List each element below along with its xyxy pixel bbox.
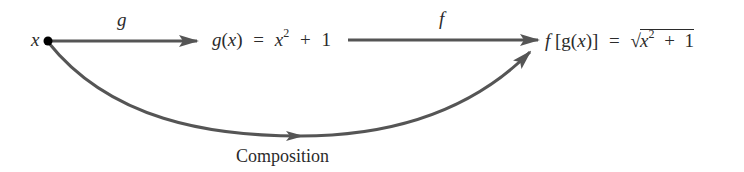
constant: 1 (685, 30, 695, 51)
close-bracket: ] (592, 30, 598, 51)
func-f: f (545, 30, 550, 51)
start-label-x: x (31, 30, 39, 49)
exponent: 2 (648, 27, 654, 41)
arrow-f-label: f (439, 9, 444, 28)
func-g: g (212, 29, 222, 50)
square-root: √x2 + 1 (631, 29, 695, 50)
plus-sign: + (300, 29, 311, 50)
arrow-g-label: g (117, 10, 127, 29)
composition-label: Composition (236, 147, 329, 165)
equals-sign: = (609, 30, 620, 51)
start-point-dot (44, 37, 53, 46)
var-x: x (228, 29, 236, 50)
equals-sign: = (253, 29, 264, 50)
func-g: g (561, 30, 571, 51)
base-x: x (275, 29, 283, 50)
middle-expression: g(x) = x2 + 1 (212, 30, 331, 49)
composition-curve (48, 42, 530, 136)
constant: 1 (321, 29, 331, 50)
exponent: 2 (283, 26, 289, 40)
var-x: x (577, 30, 585, 51)
plus-sign: + (664, 30, 675, 51)
end-expression: f [g(x)] = √x2 + 1 (545, 29, 694, 50)
diagram-arrows (0, 0, 744, 172)
